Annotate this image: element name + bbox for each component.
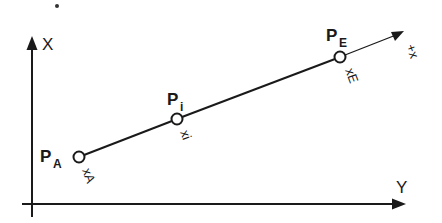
point-i-marker [172,114,183,125]
point-i-coordinate: xi [177,128,194,142]
point-a-coordinate: xA [79,166,98,186]
point-a-marker [74,152,85,163]
y-axis [22,199,406,210]
diagram-canvas: X Y +x P A P i P E xA xi xE [0,0,442,223]
point-i-label: P i [167,90,183,114]
svg-text:P: P [167,90,178,109]
segment-a-i [84,121,172,155]
point-e-coordinate: xE [342,66,361,86]
svg-text:P: P [326,26,337,45]
positive-direction-line [345,35,396,55]
point-a-label: P A [40,147,62,171]
direction-label: +x [403,42,422,61]
y-axis-arrow-icon [392,199,406,210]
svg-text:P: P [40,147,51,166]
svg-text:i: i [180,100,183,114]
x-axis-label: X [42,35,53,54]
svg-text:E: E [339,36,347,50]
svg-text:A: A [53,157,62,171]
point-e-label: P E [326,26,347,50]
y-axis-label: Y [396,178,407,197]
x-axis [27,36,38,217]
positive-direction-arrow-icon [391,31,404,41]
segment-i-e [182,59,335,117]
stray-dot [55,4,59,8]
point-e-marker [335,52,346,63]
x-axis-arrow-icon [27,36,38,50]
